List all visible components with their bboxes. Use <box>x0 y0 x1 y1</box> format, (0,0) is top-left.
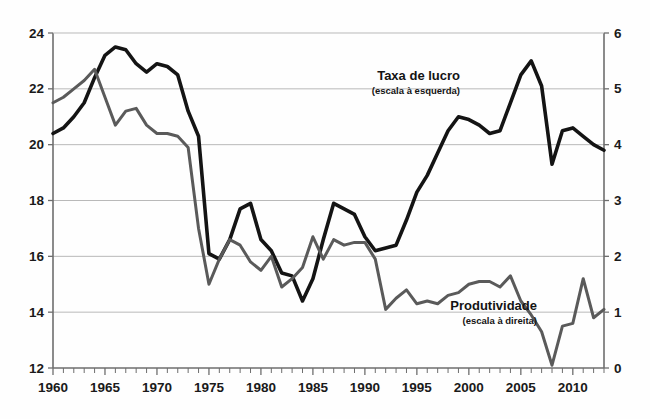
y-axis-left-tick-label: 18 <box>29 193 45 208</box>
y-axis-right-tick-label: 1 <box>614 305 622 320</box>
annotation-produtividade-title: Produtividade <box>450 298 537 313</box>
y-axis-left-tick-label: 14 <box>29 305 45 320</box>
y-axis-left-tick-label: 16 <box>29 249 45 264</box>
y-axis-left-tick-label: 20 <box>29 137 44 152</box>
y-axis-right-labels: 0123456 <box>614 26 622 376</box>
x-axis-tick-label: 1980 <box>246 380 276 395</box>
x-axis-tick-label: 2000 <box>454 380 484 395</box>
x-axis-tick-label: 2010 <box>558 380 588 395</box>
x-axis-tick-label: 1965 <box>90 380 121 395</box>
chart-container: 12141618202224 0123456 19601965197019751… <box>0 0 650 419</box>
annotation-taxa-de-lucro-title: Taxa de lucro <box>377 68 460 83</box>
series-annotations: Taxa de lucro(escala à esquerda)Produtiv… <box>372 68 537 326</box>
x-axis-tick-label: 2005 <box>506 380 537 395</box>
y-axis-right-tick-label: 0 <box>614 361 622 376</box>
x-axis-tick-label: 1985 <box>298 380 329 395</box>
annotation-taxa-de-lucro-subtitle: (escala à esquerda) <box>372 85 460 96</box>
x-axis-labels: 1960196519701975198019851990199520002005… <box>38 380 588 395</box>
y-axis-right-tick-label: 3 <box>614 193 622 208</box>
y-axis-right-tick-label: 4 <box>614 137 622 152</box>
x-axis-tick-label: 1970 <box>142 380 172 395</box>
y-axis-left-tick-label: 12 <box>29 361 44 376</box>
y-axis-left-tick-label: 22 <box>29 81 44 96</box>
x-axis-tick-label: 1995 <box>402 380 433 395</box>
y-axis-left-tick-label: 24 <box>29 26 45 41</box>
y-axis-left-labels: 12141618202224 <box>29 26 45 376</box>
chart-svg: 12141618202224 0123456 19601965197019751… <box>0 0 650 419</box>
gridlines <box>53 89 604 312</box>
x-axis-tick-label: 1960 <box>38 380 68 395</box>
y-axis-right-tick-label: 2 <box>614 249 622 264</box>
x-axis-tick-label: 1990 <box>350 380 380 395</box>
y-axis-right-tick-label: 5 <box>614 81 622 96</box>
x-axis-tick-label: 1975 <box>194 380 225 395</box>
series-line-taxa-de-lucro <box>53 47 604 301</box>
y-axis-right-tick-label: 6 <box>614 26 622 41</box>
annotation-produtividade-subtitle: (escala à direita) <box>463 315 537 326</box>
